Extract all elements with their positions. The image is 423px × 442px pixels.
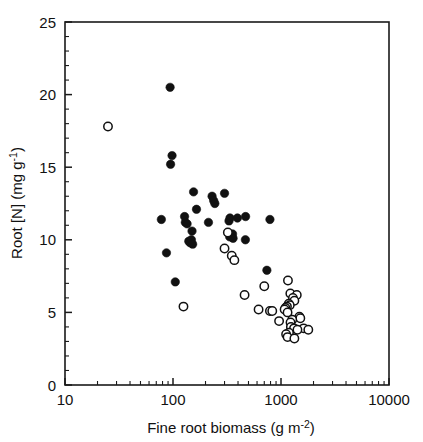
data-point-filled [162, 249, 170, 257]
x-tick-label: 10000 [368, 391, 410, 408]
data-point-open [240, 291, 248, 299]
data-point-open [293, 326, 301, 334]
data-point-filled [211, 199, 219, 207]
x-axis-ticks [65, 378, 389, 385]
data-point-filled [263, 266, 271, 274]
x-axis-title: Fine root biomass (g m-2) [147, 418, 315, 436]
data-point-open [268, 307, 276, 315]
data-point-open [230, 256, 238, 264]
y-axis-tick-labels: 0510152025 [39, 14, 56, 394]
y-tick-label: 15 [39, 159, 56, 176]
data-point-open [104, 122, 112, 130]
data-point-filled [241, 236, 249, 244]
data-point-filled [183, 220, 191, 228]
data-point-filled [171, 278, 179, 286]
data-point-open [275, 317, 283, 325]
y-tick-label: 25 [39, 14, 56, 31]
data-point-filled [204, 218, 212, 226]
scatter-plot-canvas: 0510152025 10100100010000 Fine root biom… [0, 0, 423, 442]
chart-figure: 0510152025 10100100010000 Fine root biom… [0, 0, 423, 442]
data-point-open [290, 334, 298, 342]
data-point-filled [157, 215, 165, 223]
plot-frame [65, 22, 389, 385]
data-point-filled [226, 214, 234, 222]
data-point-open [284, 276, 292, 284]
y-tick-label: 10 [39, 231, 56, 248]
data-point-filled [188, 227, 196, 235]
data-point-open [296, 314, 304, 322]
plot-border [65, 22, 389, 385]
data-point-open [220, 244, 228, 252]
data-point-open [224, 228, 232, 236]
series-filled-circles [157, 83, 274, 286]
data-point-filled [188, 240, 196, 248]
y-tick-label: 20 [39, 86, 56, 103]
data-point-filled [189, 188, 197, 196]
y-axis-ticks [65, 22, 72, 385]
data-point-filled [266, 215, 274, 223]
data-point-filled [233, 214, 241, 222]
x-axis-tick-labels: 10100100010000 [57, 391, 410, 408]
series-open-circles [104, 122, 313, 342]
x-tick-label: 100 [160, 391, 185, 408]
x-tick-label: 1000 [264, 391, 297, 408]
data-point-open [179, 302, 187, 310]
y-tick-label: 0 [48, 377, 56, 394]
data-point-filled [192, 205, 200, 213]
y-axis-title: Root [N] (mg g-1) [7, 147, 25, 259]
data-point-filled [166, 83, 174, 91]
data-point-open [304, 326, 312, 334]
data-point-filled [168, 151, 176, 159]
y-tick-label: 5 [48, 304, 56, 321]
data-point-open [254, 305, 262, 313]
data-point-open [260, 282, 268, 290]
data-point-filled [241, 212, 249, 220]
data-point-filled [220, 189, 228, 197]
x-tick-label: 10 [57, 391, 74, 408]
data-point-filled [166, 160, 174, 168]
